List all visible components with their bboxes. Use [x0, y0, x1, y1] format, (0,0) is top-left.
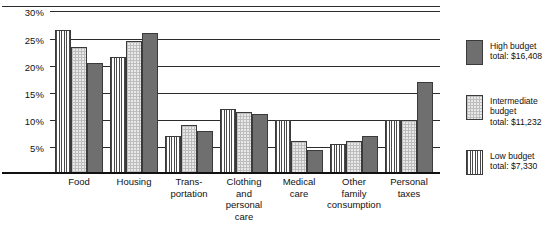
x-axis-label-line: care	[199, 211, 289, 223]
bar	[401, 120, 417, 174]
bar-group	[165, 6, 213, 174]
bar	[165, 136, 181, 174]
low-budget-swatch	[466, 150, 483, 175]
axis-baseline	[2, 172, 440, 174]
legend-high-line1: High budget	[490, 41, 542, 51]
legend-item-high-budget: High budget total: $16,408	[466, 40, 542, 65]
bar	[55, 30, 71, 174]
y-tick-label-5: 5%	[30, 142, 44, 153]
legend-item-intermediate-budget: Intermediate budget total: $11,232	[466, 95, 541, 127]
x-axis-label-line: personal	[199, 199, 289, 211]
plot-area: 30%25%20%15%10%5%	[50, 6, 440, 174]
y-tick-label-20: 20%	[25, 61, 44, 72]
y-tick-label-25: 25%	[25, 34, 44, 45]
legend-intermediate-line1: Intermediate	[490, 96, 541, 106]
x-axis-label-line: Personal	[364, 176, 454, 188]
x-axis-label: Personaltaxes	[364, 176, 454, 199]
legend-label-high-budget: High budget total: $16,408	[490, 40, 542, 62]
x-axis-label-line: taxes	[364, 188, 454, 200]
legend-intermediate-line3: total: $11,232	[490, 117, 541, 127]
bar	[197, 131, 213, 174]
bar	[362, 136, 378, 174]
bar-group	[330, 6, 378, 174]
x-axis-labels: FoodHousingTrans-portationClothingandper…	[50, 176, 440, 224]
bar	[126, 41, 142, 174]
bar	[110, 57, 126, 174]
bar	[330, 144, 346, 174]
bar	[385, 120, 401, 174]
bar	[307, 150, 323, 174]
legend-label-low-budget: Low budget total: $7,330	[490, 150, 537, 172]
bar-group	[55, 6, 103, 174]
bar	[275, 120, 291, 174]
bar	[346, 141, 362, 174]
high-budget-swatch	[466, 40, 483, 65]
bar	[87, 63, 103, 174]
legend-label-intermediate-budget: Intermediate budget total: $11,232	[490, 95, 541, 127]
bar	[71, 47, 87, 174]
bar-group	[110, 6, 158, 174]
bar	[291, 141, 307, 174]
bar	[236, 112, 252, 174]
intermediate-budget-swatch	[466, 95, 483, 120]
legend-low-line1: Low budget	[490, 151, 537, 161]
legend-item-low-budget: Low budget total: $7,330	[466, 150, 537, 175]
budget-share-bar-chart: 30%25%20%15%10%5% FoodHousingTrans-porta…	[0, 0, 560, 225]
legend-low-line2: total: $7,330	[490, 161, 537, 171]
bar	[252, 114, 268, 174]
bar	[417, 82, 433, 174]
bar	[181, 125, 197, 174]
y-tick-label-15: 15%	[25, 88, 44, 99]
bar	[142, 33, 158, 174]
y-tick-label-10: 10%	[25, 115, 44, 126]
bar-group	[220, 6, 268, 174]
bar-group	[385, 6, 433, 174]
bar-groups	[50, 6, 440, 174]
bar-group	[275, 6, 323, 174]
legend-intermediate-line2: budget	[490, 106, 541, 116]
y-tick-label-30: 30%	[25, 7, 44, 18]
bar	[220, 109, 236, 174]
legend-high-line2: total: $16,408	[490, 51, 542, 61]
x-axis-label-line: consumption	[309, 199, 399, 211]
